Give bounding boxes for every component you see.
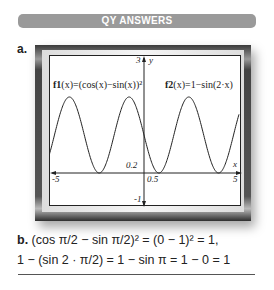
part-b-line1: (cos π/2 − sin π/2)² = (0 − 1)² = 1, [32,233,219,247]
divider [18,274,255,275]
f1-label: f1(x)=(cos(x)−sin(x))² [53,79,142,90]
graph-plot: 3 y -1 -5 5 x 0.2 0.5 f1(x)=(cos(x)−sin(… [49,55,241,206]
tick-xmax: 5 [233,174,238,184]
part-a-label: a. [17,42,27,56]
tick-ymax: 3 [136,55,141,65]
f2-label: f2(x)=1−sin(2·x) [165,79,233,90]
part-b-label: b. [17,233,28,247]
part-b-answer: b. (cos π/2 − sin π/2)² = (0 − 1)² = 1, … [17,230,230,270]
y-axis-down-arrow-icon [142,201,146,207]
x-axis-label: x [233,159,237,169]
tick-xmin: -5 [52,174,60,184]
tick-xscale: 0.5 [147,174,158,184]
y-axis-label: y [149,55,153,65]
tick-yscale: 0.2 [126,160,137,170]
tick-ymin: -1 [134,194,142,204]
y-axis-up-arrow-icon [142,56,146,62]
section-header: QY ANSWERS [18,14,256,28]
part-b-line2: 1 − (sin 2 · π/2) = 1 − sin π = 1 − 0 = … [17,250,230,270]
